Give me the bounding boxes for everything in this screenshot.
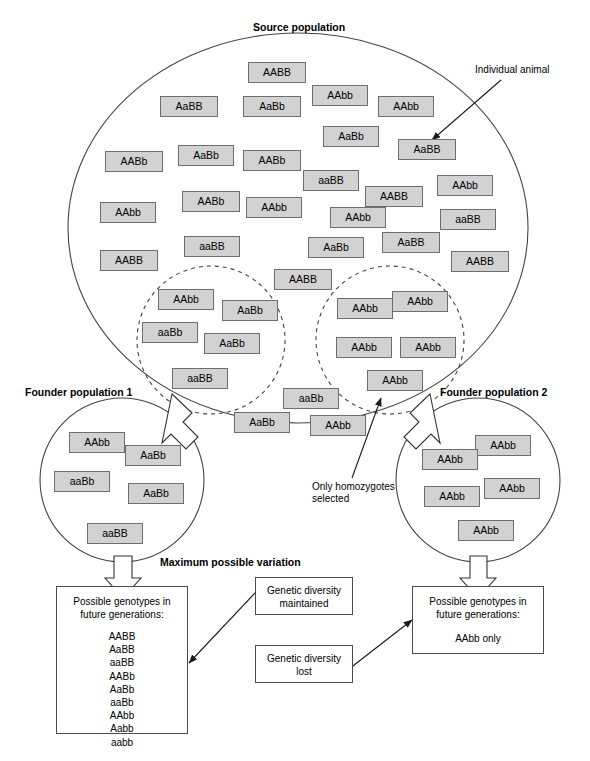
arrow-individual-animal [432,80,501,140]
genotype-list-item: aaBB [57,656,187,669]
genotype-chip: AaBb [308,237,364,258]
founder-population-1-title: Founder population 1 [25,386,132,398]
outcome-right-result: AAbb only [413,632,543,645]
genotype-chip: AaBB [160,96,218,117]
genotype-list-item: aabb [57,736,187,749]
genotype-list-item: AaBb [57,683,187,696]
genotype-chip: aaBb [283,388,339,409]
genotype-chip: AAbb [378,96,434,117]
individual-animal-label: Individual animal [475,64,550,75]
genotype-chip: AABB [274,269,332,290]
genotype-chip: AAbb [484,478,540,499]
genotype-list-item: Aabb [57,722,187,735]
genotype-chip: AAbb [330,207,386,228]
genotype-chip: AABB [451,251,509,272]
genotype-chip: AAbb [336,337,392,358]
note-lost-line1: Genetic diversity [256,652,352,665]
outcome-right-heading-line1: Possible genotypes in [413,595,543,608]
genotype-chip: AaBB [382,232,440,253]
genotype-chip: AAbb [69,432,125,453]
arrow-diversity-maintained [189,592,256,663]
genotype-chip: AAbb [158,289,214,310]
diagram-canvas: Source population Individual animal Only… [0,0,590,761]
genotype-chip: AAbb [100,202,156,223]
genotype-chip: AaBb [128,483,184,504]
genotype-chip: AaBb [323,126,379,147]
genotype-chip: aaBB [184,236,240,257]
source-population-title: Source population [253,21,345,33]
genotype-chip: AAbb [246,197,302,218]
genotype-chip: AAbb [475,435,531,456]
arrow-left-selection-to-founder1 [162,394,198,449]
genotype-chip: AABB [100,250,158,271]
outcome-right-heading-line2: future generations: [413,608,543,621]
genotype-chip: AABb [182,191,240,212]
genotype-chip: aaBB [87,523,143,544]
genotype-chip: AAbb [310,415,366,436]
outcome-left-heading-line1: Possible genotypes in [57,595,187,608]
genotype-list-item: aaBb [57,696,187,709]
genotype-chip: AaBb [125,445,181,466]
only-homozygotes-label-line2: selected [312,493,349,504]
genotype-chip: aaBB [172,368,228,389]
outcome-box-left: Possible genotypes in future generations… [56,586,188,734]
genotype-list-item: AAbb [57,709,187,722]
genotype-chip: aaBB [440,209,496,230]
genotype-chip: AaBb [204,333,260,354]
only-homozygotes-label-line1: Only homozygotes [312,481,395,492]
genotype-chip: AaBb [222,300,278,321]
note-box-diversity-maintained: Genetic diversity maintained [255,577,353,615]
genotype-chip: AABb [105,151,163,172]
genotype-chip: AaBb [178,145,234,166]
genotype-list-item: AaBB [57,643,187,656]
genotype-list-item: AABb [57,670,187,683]
maximum-variation-label: Maximum possible variation [160,556,301,568]
note-lost-line2: lost [256,665,352,678]
genotype-chip: AAbb [312,85,368,106]
genotype-chip: AAbb [458,520,514,541]
genotype-chip: AaBb [234,412,290,433]
genotype-chip: AAbb [367,370,423,391]
outcome-box-right: Possible genotypes in future generations… [412,586,544,654]
arrow-only-homozygotes [352,398,381,478]
outcome-left-genotype-list: AABBAaBBaaBBAABbAaBbaaBbAAbbAabbaabb [57,630,187,749]
genotype-chip: AABB [248,62,306,83]
genotype-chip: AAbb [337,298,393,319]
arrow-right-selection-to-founder2 [404,394,440,449]
genotype-chip: AaBB [398,139,456,160]
note-maintained-line1: Genetic diversity [256,584,352,597]
genotype-chip: aaBb [54,471,110,492]
genotype-chip: AAbb [392,291,448,312]
note-maintained-line2: maintained [256,597,352,610]
genotype-list-item: AABB [57,630,187,643]
genotype-chip: AAbb [422,449,478,470]
genotype-chip: AABB [365,186,423,207]
founder-population-2-title: Founder population 2 [440,386,547,398]
genotype-chip: AAbb [424,486,480,507]
genotype-chip: aaBB [303,170,359,191]
note-box-diversity-lost: Genetic diversity lost [255,645,353,683]
genotype-chip: AAbb [437,175,493,196]
genotype-chip: AAbb [400,337,456,358]
outcome-left-heading-line2: future generations: [57,608,187,621]
genotype-chip: aaBb [142,322,198,343]
genotype-chip: AABb [243,150,301,171]
genotype-chip: AaBb [243,96,301,117]
